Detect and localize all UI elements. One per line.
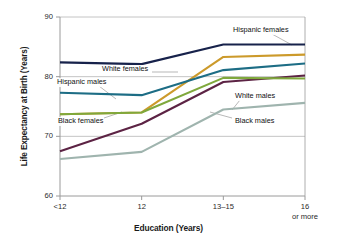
x-tick-sublabel: or more [275, 212, 335, 221]
x-tick-label: 12 [112, 202, 172, 211]
y-tick-label: 70 [29, 131, 53, 140]
series-label-black-females: Black females [57, 117, 104, 126]
x-tick-label: <12 [30, 202, 90, 211]
y-tick-label: 80 [29, 72, 53, 81]
x-axis-title: Education (Years) [0, 223, 337, 233]
x-tick-label: 13–15 [193, 202, 253, 211]
series-label-hispanic-males: Hispanic males [56, 78, 107, 87]
series-label-white-females: White females [101, 65, 149, 74]
series-label-white-males: White males [234, 92, 276, 101]
data-series-group [60, 44, 305, 159]
y-tick-label: 90 [29, 12, 53, 21]
life-expectancy-line-chart: Life Expectancy at Birth (Years) 6070809… [0, 0, 337, 244]
x-tick-label: 16 [275, 202, 335, 211]
y-tick-label: 60 [29, 191, 53, 200]
series-label-black-males: Black males [234, 117, 275, 126]
series-label-hispanic-females: Hispanic females [232, 26, 290, 35]
